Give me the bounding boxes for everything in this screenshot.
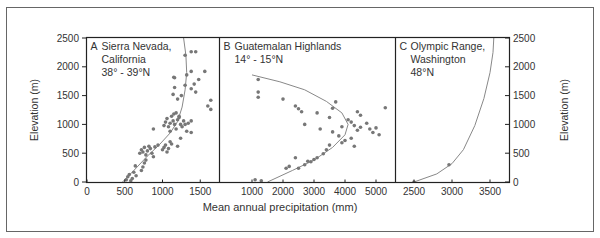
data-point xyxy=(281,97,285,101)
x-tick-label: 4000 xyxy=(334,186,357,197)
y-tick-label-left: 2000 xyxy=(57,61,80,72)
data-point xyxy=(359,113,363,117)
data-point xyxy=(197,78,201,82)
data-point xyxy=(176,145,180,149)
data-point xyxy=(182,119,186,123)
data-point xyxy=(165,117,169,121)
data-point xyxy=(189,70,193,74)
data-point xyxy=(138,151,142,155)
data-point xyxy=(253,178,257,182)
data-point xyxy=(447,163,451,167)
data-point xyxy=(294,104,298,108)
y-tick-label-left: 2500 xyxy=(57,33,80,44)
data-point xyxy=(331,130,335,134)
panel-letter: C xyxy=(400,40,408,52)
data-point xyxy=(170,142,174,146)
data-point xyxy=(132,170,136,174)
y-tick-label-left: 0 xyxy=(73,177,79,188)
panel-subtitle: 14° - 15°N xyxy=(235,53,284,65)
x-axis-label: Mean annual precipitation (mm) xyxy=(203,201,358,213)
data-point xyxy=(194,90,198,94)
data-point xyxy=(209,98,213,102)
data-point xyxy=(189,50,193,54)
data-point xyxy=(256,78,260,82)
data-point xyxy=(340,125,344,129)
x-tick-label: 3500 xyxy=(479,186,502,197)
data-point xyxy=(374,126,378,130)
data-point xyxy=(162,124,166,128)
data-point xyxy=(152,127,156,131)
panel-subtitle: 38° - 39°N xyxy=(102,66,151,78)
panel-letter: A xyxy=(91,40,98,52)
data-point xyxy=(173,86,177,90)
data-point xyxy=(168,130,172,134)
data-point xyxy=(368,127,372,131)
data-point xyxy=(356,110,360,114)
figure: ASierra Nevada,California38° - 39°NBGuat… xyxy=(0,0,600,238)
x-tick-label: 3000 xyxy=(303,186,326,197)
data-point xyxy=(300,110,304,114)
data-point xyxy=(384,106,388,110)
data-point xyxy=(349,136,353,140)
y-tick-label-right: 2500 xyxy=(513,33,536,44)
x-tick-label: 0 xyxy=(84,186,90,197)
data-point xyxy=(183,54,187,58)
data-point xyxy=(167,125,171,129)
panel-title: Guatemalan Highlands xyxy=(235,40,342,52)
data-point xyxy=(180,94,184,98)
data-point xyxy=(353,145,357,149)
data-point xyxy=(134,164,138,168)
data-point xyxy=(164,120,168,124)
data-point xyxy=(328,116,332,120)
data-point xyxy=(256,96,260,100)
panel-title: Olympic Range, xyxy=(411,40,486,52)
data-point xyxy=(353,124,357,128)
data-point xyxy=(177,115,181,119)
data-point xyxy=(331,107,335,111)
data-point xyxy=(189,131,193,135)
y-axis-label-left: Elevation (m) xyxy=(28,79,40,141)
data-point xyxy=(185,73,189,77)
data-point xyxy=(365,121,369,125)
x-tick-label: 2000 xyxy=(272,186,295,197)
data-point xyxy=(203,70,207,74)
data-point xyxy=(377,133,381,137)
data-point xyxy=(144,158,148,162)
data-point xyxy=(164,143,168,147)
data-point xyxy=(303,163,307,167)
y-tick-label-right: 500 xyxy=(513,148,530,159)
data-point xyxy=(297,166,301,170)
data-point xyxy=(180,125,184,129)
data-point xyxy=(144,153,148,157)
data-point xyxy=(306,160,310,164)
data-point xyxy=(343,139,347,143)
data-point xyxy=(141,150,145,154)
panel-title-line2: California xyxy=(102,53,147,65)
data-point xyxy=(349,120,353,124)
y-tick-label-right: 1500 xyxy=(513,90,536,101)
data-point xyxy=(303,123,307,127)
x-tick-label: 1000 xyxy=(151,186,174,197)
data-point xyxy=(189,119,193,123)
panel-subtitle: 48°N xyxy=(411,66,434,78)
data-point xyxy=(356,128,360,132)
data-point xyxy=(186,121,190,125)
data-point xyxy=(359,126,363,130)
data-point xyxy=(165,150,169,154)
data-point xyxy=(176,97,180,101)
y-tick-label-left: 500 xyxy=(62,148,79,159)
x-tick-label: 1000 xyxy=(241,186,264,197)
data-point xyxy=(337,134,341,138)
data-point xyxy=(167,147,171,151)
data-point xyxy=(284,166,288,170)
data-point xyxy=(315,156,319,160)
y-axis-label-right: Elevation (m) xyxy=(558,79,570,141)
data-point xyxy=(325,148,329,152)
data-point xyxy=(322,152,326,156)
y-tick-label-left: 1500 xyxy=(57,90,80,101)
x-tick-label: 2500 xyxy=(403,186,426,197)
data-point xyxy=(149,147,153,151)
data-point xyxy=(152,155,156,159)
data-point xyxy=(371,131,375,135)
y-tick-label-right: 1000 xyxy=(513,119,536,130)
